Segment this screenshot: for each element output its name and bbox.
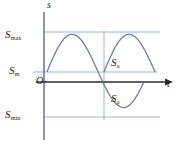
s-amplitude-lower-label: Sa — [111, 92, 119, 104]
s-max-label: Smax — [5, 28, 21, 40]
origin-label: O — [36, 75, 43, 86]
s-axis-label: s — [47, 0, 51, 10]
t-axis-label: t — [167, 78, 170, 89]
s-min-label: Smin — [5, 108, 20, 120]
s-mean-label: Sm — [9, 64, 19, 76]
s-amplitude-upper-label: Sa — [111, 56, 119, 68]
signal-amplitude-diagram: Smax Sm Smin Sa Sa O s t — [0, 0, 180, 154]
diagram-canvas — [0, 0, 180, 154]
